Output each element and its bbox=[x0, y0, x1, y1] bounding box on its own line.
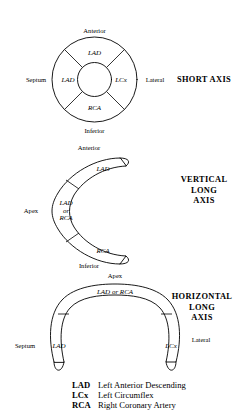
segment-label-lateral: LCx bbox=[114, 76, 128, 84]
horizontal-long-axis-title-line-3: AXIS bbox=[162, 313, 242, 324]
segment-label-septal: LAD bbox=[60, 76, 74, 84]
segment-label-septal-arm: LAD bbox=[51, 342, 65, 350]
segment-label-apex-line-3: RCA bbox=[58, 214, 73, 222]
legend-abbr-lcx: LCx bbox=[72, 390, 98, 400]
legend-row-rca: RCARight Coronary Artery bbox=[72, 400, 186, 410]
vertical-long-axis-title-line-3: AXIS bbox=[168, 196, 240, 207]
segment-label-anterior-arm: LAD bbox=[95, 165, 109, 173]
legend-desc-rca: Right Coronary Artery bbox=[98, 400, 176, 410]
panel-short-axis: LAD LAD LCx RCA Anterior Inferior Septum… bbox=[0, 0, 242, 140]
vertical-long-axis-title-line-1: VERTICAL bbox=[168, 175, 240, 186]
short-axis-inner-circle bbox=[78, 63, 112, 97]
vertical-long-axis-divider-lower bbox=[66, 233, 79, 242]
legend-desc-lad: Left Anterior Descending bbox=[98, 380, 186, 390]
orientation-label-inferior-vla: Inferior bbox=[79, 262, 100, 269]
orientation-label-apex-vla: Apex bbox=[24, 207, 39, 214]
horizontal-long-axis-title-line-2: LONG bbox=[162, 303, 242, 314]
segment-label-apex-hla: LAD or RCA bbox=[96, 288, 134, 296]
short-axis-divider-ne bbox=[107, 49, 125, 67]
short-axis-divider-sw bbox=[64, 92, 82, 110]
segment-label-inferior: RCA bbox=[87, 104, 102, 112]
orientation-label-anterior: Anterior bbox=[83, 27, 106, 34]
segment-label-lateral-arm: LCx bbox=[164, 342, 178, 350]
orientation-label-inferior: Inferior bbox=[84, 127, 105, 134]
segment-label-inferior-arm: RCA bbox=[95, 247, 110, 255]
legend-row-lad: LADLeft Anterior Descending bbox=[72, 380, 186, 390]
vertical-long-axis-title: VERTICAL LONG AXIS bbox=[168, 175, 240, 207]
legend-row-lcx: LCxLeft Circumflex bbox=[72, 390, 186, 400]
orientation-label-anterior-vla: Anterior bbox=[78, 144, 101, 151]
orientation-label-septum: Septum bbox=[26, 76, 47, 83]
short-axis-divider-se bbox=[107, 92, 125, 110]
short-axis-diagram: LAD LAD LCx RCA Anterior Inferior Septum… bbox=[0, 0, 242, 140]
orientation-label-lateral: Lateral bbox=[146, 76, 165, 83]
vertical-long-axis-divider-upper bbox=[66, 180, 79, 189]
vertical-long-axis-title-line-2: LONG bbox=[168, 186, 240, 197]
orientation-label-lateral-hla: Lateral bbox=[192, 336, 211, 343]
legend-abbr-lad: LAD bbox=[72, 380, 98, 390]
segment-label-anterior: LAD bbox=[87, 49, 101, 57]
horizontal-long-axis-title: HORIZONTAL LONG AXIS bbox=[162, 292, 242, 324]
horizontal-long-axis-lateral-tip bbox=[166, 362, 176, 370]
horizontal-long-axis-septal-tip bbox=[54, 362, 64, 370]
legend-desc-lcx: Left Circumflex bbox=[98, 390, 154, 400]
short-axis-title: SHORT AXIS bbox=[168, 75, 240, 86]
legend: LADLeft Anterior Descending LCxLeft Circ… bbox=[72, 380, 186, 411]
orientation-label-apex-hla: Apex bbox=[108, 272, 123, 279]
horizontal-long-axis-title-line-1: HORIZONTAL bbox=[162, 292, 242, 303]
short-axis-title-line-1: SHORT AXIS bbox=[177, 75, 231, 84]
legend-abbr-rca: RCA bbox=[72, 400, 98, 410]
panel-vertical-long-axis: LAD LAD or RCA RCA Anterior Inferior Ape… bbox=[0, 140, 242, 270]
short-axis-divider-nw bbox=[64, 49, 82, 67]
horizontal-long-axis-diagram: LAD or RCA LAD LCx Apex Septum Lateral bbox=[0, 270, 242, 380]
orientation-label-septum-hla: Septum bbox=[15, 342, 36, 349]
panel-horizontal-long-axis: LAD or RCA LAD LCx Apex Septum Lateral H… bbox=[0, 270, 242, 380]
